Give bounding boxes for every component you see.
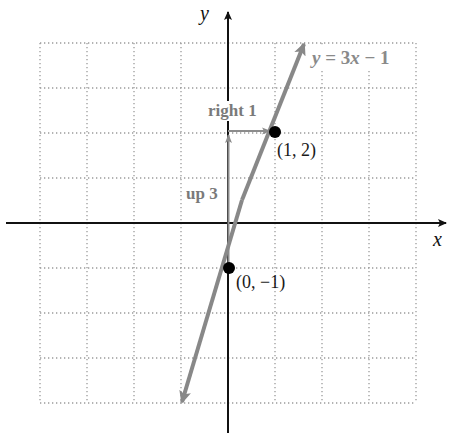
right-1-label: right 1 xyxy=(207,101,258,121)
point-0-neg1 xyxy=(223,262,235,274)
axes xyxy=(6,12,446,433)
equation-mid: = 3 xyxy=(320,47,350,68)
up-3-label: up 3 xyxy=(186,184,218,204)
line-y-equals-3x-minus-1-lower xyxy=(182,200,242,402)
graph-container: y x y = 3x − 1 right 1 up 3 (1, 2) (0, −… xyxy=(0,0,455,435)
equation-label: y = 3x − 1 xyxy=(310,47,392,69)
line-y-equals-3x-minus-1 xyxy=(242,44,304,200)
point-0-neg1-label: (0, −1) xyxy=(236,272,285,293)
y-axis-label: y xyxy=(200,2,209,25)
point-1-2-label: (1, 2) xyxy=(277,140,316,161)
equation-suffix: − 1 xyxy=(360,47,390,68)
equation-x: x xyxy=(350,47,360,68)
point-1-2 xyxy=(269,126,281,138)
x-axis-label: x xyxy=(433,228,442,251)
